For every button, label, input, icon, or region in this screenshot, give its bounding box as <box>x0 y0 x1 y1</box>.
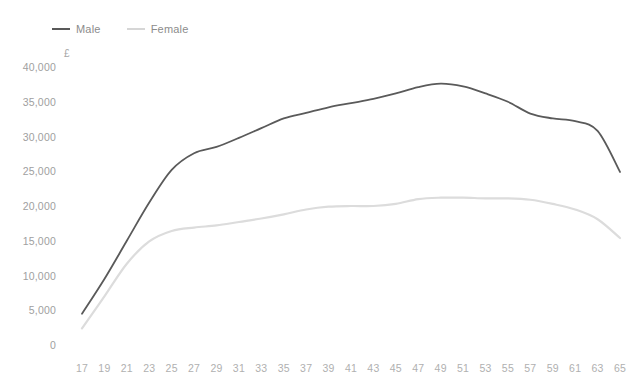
series-line-female <box>82 198 620 329</box>
line-chart: Male Female £ 40,00035,00030,00025,00020… <box>0 0 637 389</box>
plot-area <box>0 0 637 389</box>
series-line-male <box>82 84 620 314</box>
